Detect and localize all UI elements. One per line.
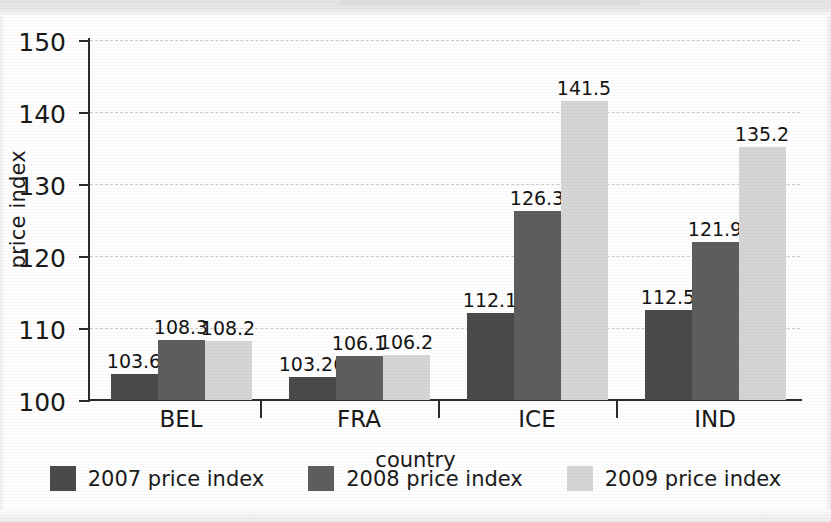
bar-group: 112.1126.3141.5 [467,40,608,400]
bar-fill [111,374,158,400]
bar[interactable]: 103.26 [289,377,336,400]
legend-swatch [50,466,76,491]
y-tick-label: 130 [18,174,66,199]
scan-artifact-bottom [0,510,831,522]
bar-value-label: 141.5 [557,79,611,98]
bar[interactable]: 135.2 [739,147,786,400]
bar[interactable]: 112.5 [645,310,692,400]
y-axis-line [88,38,90,402]
legend-item[interactable]: 2009 price index [567,466,782,491]
bar[interactable]: 108.2 [205,341,252,400]
bar[interactable]: 121.9 [692,242,739,400]
y-tick-mark: 100 [79,400,88,402]
chart-legend: 2007 price index2008 price index2009 pri… [0,466,831,491]
bar-group: 112.5121.9135.2 [645,40,786,400]
bar[interactable]: 106.2 [383,355,430,400]
scan-artifact-top-streak [340,0,640,5]
bar-group: 103.6108.3108.2 [111,40,252,400]
bar-value-label: 126.3 [510,189,564,208]
legend-label: 2009 price index [605,467,782,491]
category-label: ICE [518,408,555,431]
bar-value-label: 121.9 [688,220,742,239]
bar-value-label: 108.2 [201,319,255,338]
category-label: IND [694,408,736,431]
scan-artifact-left [0,16,4,510]
bar[interactable]: 141.5 [561,101,608,400]
x-tick-mark [616,400,618,418]
y-tick-label: 110 [18,318,66,343]
chart-page: price index 100110120130140150 103.6108.… [0,0,831,522]
bar-fill [336,356,383,400]
bar-fill [205,341,252,400]
scan-artifact-right [826,16,831,510]
legend-label: 2008 price index [346,467,523,491]
plot-area: 100110120130140150 103.6108.3108.2103.26… [88,40,800,400]
bar-value-label: 112.5 [641,288,695,307]
bar[interactable]: 112.1 [467,313,514,400]
legend-swatch [308,466,334,491]
y-tick-mark: 140 [79,112,88,114]
bar-group: 103.26106.1106.2 [289,40,430,400]
y-tick-label: 120 [18,246,66,271]
bar-fill [289,377,336,400]
y-tick-mark: 130 [79,184,88,186]
y-tick-mark: 110 [79,328,88,330]
bar-fill [561,101,608,400]
bar-value-label: 112.1 [463,291,517,310]
y-tick-label: 100 [18,390,66,415]
bar-fill [692,242,739,400]
y-tick-mark: 120 [79,256,88,258]
y-tick-mark: 150 [79,40,88,42]
bar[interactable]: 103.6 [111,374,158,400]
bar-fill [514,211,561,400]
bar-fill [739,147,786,400]
bar-value-label: 106.2 [379,333,433,352]
x-tick-mark [260,400,262,418]
bar-fill [158,340,205,400]
legend-swatch [567,466,593,491]
bar[interactable]: 108.3 [158,340,205,400]
category-label: BEL [159,408,202,431]
category-label: FRA [337,408,381,431]
bar-value-label: 135.2 [735,125,789,144]
bar[interactable]: 106.1 [336,356,383,400]
bar[interactable]: 126.3 [514,211,561,400]
x-tick-mark [438,400,440,418]
bar-fill [467,313,514,400]
bar-value-label: 103.6 [107,352,161,371]
bar-fill [383,355,430,400]
legend-item[interactable]: 2008 price index [308,466,523,491]
legend-item[interactable]: 2007 price index [50,466,265,491]
legend-label: 2007 price index [88,467,265,491]
y-tick-label: 150 [18,30,66,55]
bar-fill [645,310,692,400]
y-tick-label: 140 [18,102,66,127]
